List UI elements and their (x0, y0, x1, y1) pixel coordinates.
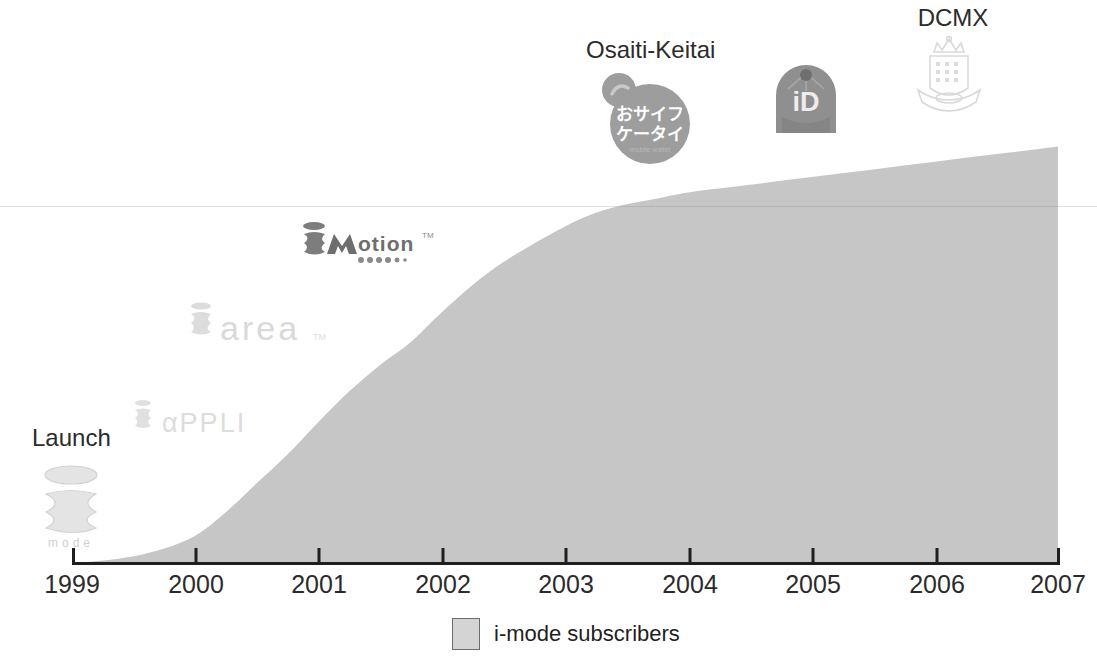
x-tick-label-2006: 2006 (897, 570, 977, 599)
annotation-dcmx-caption: DCMX (898, 4, 1008, 32)
x-tick-label-2005: 2005 (773, 570, 853, 599)
i-appli-logo: αPPLI (130, 396, 252, 442)
osaifu-keitai-logo: おサイフ ケータイ mobile wallet (592, 64, 700, 172)
osaifu-keitai-logo-subtext: mobile wallet (630, 146, 671, 153)
legend-swatch-i-mode-subscribers (452, 618, 480, 650)
i-motion-logo-tm: TM (422, 231, 434, 240)
annotation-i-appli: αPPLI (130, 396, 252, 442)
i-mode-logo-wordmark: mode (48, 536, 94, 550)
i-area-logo-tm: TM (313, 332, 326, 342)
i-mode-logo: mode (32, 452, 110, 552)
id-logo: iD (768, 55, 844, 135)
annotation-i-motion: otion TM (300, 218, 435, 268)
x-tick-label-2001: 2001 (279, 570, 359, 599)
annotation-id: iD (768, 55, 848, 135)
i-appli-logo-wordmark: αPPLI (162, 408, 246, 438)
annotation-i-area: area TM (186, 298, 328, 350)
x-tick-label-1999: 1999 (32, 570, 112, 599)
i-motion-logo-wordmark: otion (358, 232, 414, 255)
x-tick-label-2003: 2003 (526, 570, 606, 599)
dcmx-logo (902, 32, 996, 120)
annotation-launch: Launch mode (32, 424, 152, 552)
i-motion-logo: otion TM (300, 218, 435, 268)
annotation-dcmx: DCMX (898, 4, 1008, 120)
legend-label-i-mode-subscribers: i-mode subscribers (494, 621, 680, 647)
x-tick-label-2000: 2000 (156, 570, 236, 599)
osaifu-keitai-logo-line1: おサイフ (616, 105, 684, 124)
annotation-osaifu-keitai-caption: Osaiti-Keitai (586, 36, 710, 64)
chart-page: 1999 2000 2001 2002 2003 2004 2005 2006 … (0, 0, 1097, 662)
chart-legend: i-mode subscribers (452, 618, 680, 650)
scan-artifact-line (0, 206, 1097, 207)
area-series-i-mode-subscribers (72, 147, 1058, 564)
i-area-logo: area TM (186, 298, 328, 350)
x-tick-label-2002: 2002 (403, 570, 483, 599)
i-motion-logo-dots (358, 257, 407, 263)
x-tick-label-2004: 2004 (650, 570, 730, 599)
annotation-osaifu-keitai: Osaiti-Keitai おサイフ ケータイ mobile wallet (586, 36, 710, 172)
id-logo-wordmark: iD (793, 87, 820, 117)
x-tick-label-2007: 2007 (1018, 570, 1097, 599)
osaifu-keitai-logo-line2: ケータイ (616, 125, 684, 144)
i-area-logo-wordmark: area (220, 309, 300, 347)
